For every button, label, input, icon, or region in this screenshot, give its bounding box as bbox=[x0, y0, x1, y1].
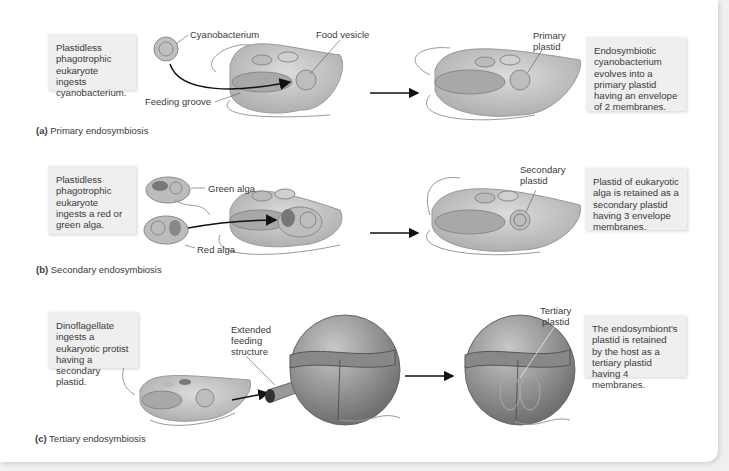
step-description-b-right: Plastid of eukaryotic alga is retained a… bbox=[585, 168, 687, 230]
dinoflagellate-host bbox=[290, 315, 400, 425]
label-primary-plastid-line2: plastid bbox=[533, 41, 560, 52]
caption-letter-b: (b) bbox=[36, 264, 48, 275]
label-feeding-groove: Feeding groove bbox=[145, 96, 211, 107]
step-description-c-left: Dinoflagellate ingests a eukaryotic prot… bbox=[48, 312, 138, 368]
label-tertiary-plastid-line2: plastid bbox=[542, 316, 569, 327]
secondary-result-cell bbox=[427, 177, 581, 254]
caption-a: (a) Primary endosymbiosis bbox=[36, 125, 148, 136]
primary-host-cell bbox=[211, 44, 342, 117]
label-tertiary-plastid-line1: Tertiary bbox=[540, 305, 571, 316]
caption-letter-a: (a) bbox=[36, 125, 48, 136]
label-red-alga: Red alga bbox=[197, 244, 235, 255]
red-alga-icon bbox=[144, 216, 188, 244]
primary-result-cell bbox=[415, 48, 580, 120]
label-secondary-plastid-line2: plastid bbox=[520, 175, 547, 186]
caption-b: (b) Secondary endosymbiosis bbox=[36, 264, 162, 275]
label-secondary-plastid-line1: Secondary bbox=[520, 164, 565, 175]
step-description-b-left: Plastidless phagotrophic eukaryote inges… bbox=[48, 166, 136, 234]
label-extended-line2: feeding bbox=[231, 335, 262, 346]
caption-text-b: Secondary endosymbiosis bbox=[51, 264, 162, 275]
label-primary-plastid-line1: Primary bbox=[533, 30, 566, 41]
green-alga-icon bbox=[146, 177, 190, 203]
label-green-alga: Green alga bbox=[208, 183, 255, 194]
label-cyanobacterium: Cyanobacterium bbox=[190, 29, 259, 40]
step-description-a-right: Endosymbiotic cyanobacterium evolves int… bbox=[586, 37, 686, 111]
cyanobacterium-icon bbox=[154, 37, 178, 61]
label-food-vesicle: Food vesicle bbox=[316, 29, 369, 40]
step-description-c-right: The endosymbiont's plastid is retained b… bbox=[584, 315, 686, 377]
caption-letter-c: (c) bbox=[35, 433, 47, 444]
step-description-a-left: Plastidless phagotrophic eukaryote inges… bbox=[48, 34, 136, 90]
caption-text-c: Tertiary endosymbiosis bbox=[49, 433, 146, 444]
dinoflagellate-prey-cell bbox=[123, 345, 251, 425]
caption-c: (c) Tertiary endosymbiosis bbox=[35, 433, 146, 444]
label-extended-line3: structure bbox=[231, 346, 268, 357]
tertiary-result-cell bbox=[465, 315, 575, 425]
caption-text-a: Primary endosymbiosis bbox=[50, 125, 148, 136]
label-extended-line1: Extended bbox=[231, 324, 271, 335]
